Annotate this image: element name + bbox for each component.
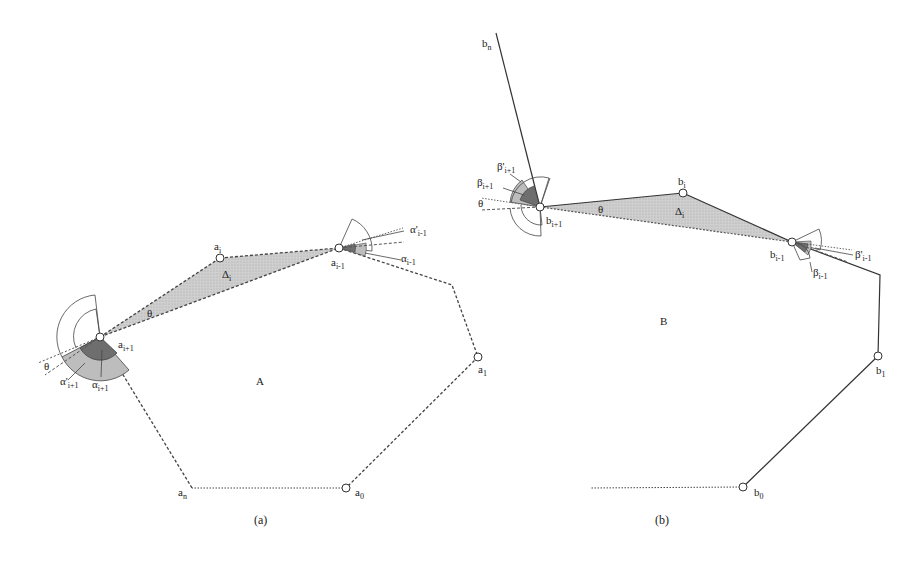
triangle-delta-i-b [540, 193, 792, 242]
region-label-b: B [660, 315, 667, 327]
panel-a: ai ai+1 ai-1 a1 a0 an Δi θ θ α'i+1 αi+1 … [38, 219, 487, 527]
label-a-n: an [178, 486, 187, 501]
polygon-a-edges [100, 248, 478, 488]
vertex-b-0 [739, 483, 747, 491]
label-beta-i-plus-1: βi+1 [477, 176, 493, 191]
label-b-i-minus-1: bi-1 [770, 248, 784, 263]
diagram-canvas: ai ai+1 ai-1 a1 a0 an Δi θ θ α'i+1 αi+1 … [0, 0, 917, 564]
angle-wedges-b-i-minus-1 [792, 229, 853, 272]
caption-b: (b) [655, 513, 669, 527]
label-a-0: a0 [355, 486, 364, 501]
polygon-b-edges [496, 33, 880, 488]
vertex-a-i-minus-1 [335, 244, 343, 252]
label-a-i-plus-1: ai+1 [118, 338, 134, 353]
label-theta-a: θ [147, 307, 152, 319]
label-theta-a-outer: θ [44, 360, 49, 372]
label-theta-b-outer: θ [478, 197, 483, 209]
label-alpha-prime-i-minus-1: α'i-1 [410, 223, 427, 238]
label-b-1: b1 [876, 364, 886, 379]
label-alpha-prime-i-plus-1: α'i+1 [60, 375, 78, 390]
vertices-b [536, 189, 882, 491]
vertex-a-1 [474, 353, 482, 361]
label-b-i: bi [678, 175, 687, 190]
angle-wedges-a-i-minus-1 [339, 219, 404, 260]
vertices-a [96, 244, 482, 492]
label-b-i-plus-1: bi+1 [546, 214, 562, 229]
vertex-a-0 [342, 484, 350, 492]
vertex-b-i-plus-1 [536, 203, 544, 211]
caption-a: (a) [254, 513, 267, 527]
label-theta-b: θ [598, 203, 603, 215]
angle-wedges-a-i-plus-1 [38, 295, 129, 381]
label-a-i-minus-1: ai-1 [331, 256, 345, 271]
vertex-a-i [216, 254, 224, 262]
vertex-b-1 [874, 352, 882, 360]
label-a-1: a1 [478, 363, 487, 378]
vertex-b-i-minus-1 [788, 238, 796, 246]
label-beta-i-minus-1: βi-1 [813, 266, 828, 281]
label-beta-prime-i-minus-1: β'i-1 [855, 248, 871, 263]
panel-b: bn bi bi+1 bi-1 b1 b0 Δi θ θ β'i+1 βi+1 … [477, 33, 886, 527]
label-alpha-i-minus-1: αi-1 [401, 252, 416, 267]
label-b-n: bn [482, 37, 492, 52]
label-b-0: b0 [754, 486, 764, 501]
label-a-i: ai [214, 240, 222, 255]
vertex-b-i [679, 189, 687, 197]
region-label-a: A [256, 375, 264, 387]
label-beta-prime-i-plus-1: β'i+1 [497, 160, 515, 175]
vertex-a-i-plus-1 [96, 333, 104, 341]
